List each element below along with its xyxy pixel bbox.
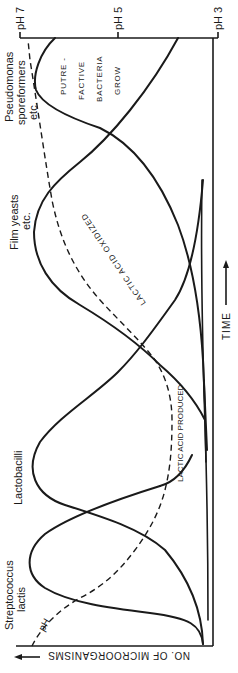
- label-time-axis: TIME: [221, 312, 232, 340]
- label-lactic-produced: LACTIC ACID PRODUCED: [176, 384, 185, 482]
- label-count-axis: NO. OF MICROORGANISMS: [48, 650, 190, 661]
- svg-text:PUTRE -: PUTRE -: [59, 57, 68, 95]
- label-ph-curve: pH: [36, 616, 52, 633]
- label-lactic-oxidized: LACTIC ACID OXIDIZED: [79, 211, 148, 307]
- label-putrefactive: PUTRE - FACTIVE BACTERIA GROW: [59, 56, 122, 102]
- svg-text:Pseudomonas: Pseudomonas: [3, 51, 15, 122]
- svg-text:Film yeasts: Film yeasts: [8, 194, 20, 250]
- label-streptococcus: Streptococcus lactis: [3, 560, 27, 630]
- svg-text:BACTERIA: BACTERIA: [95, 56, 104, 102]
- label-lactobacilli: Lactobacilli: [12, 451, 24, 505]
- svg-text:lactis: lactis: [15, 586, 27, 612]
- svg-text:Streptococcus: Streptococcus: [3, 560, 15, 630]
- label-film-yeasts: Film yeasts etc.: [8, 194, 32, 250]
- label-pseudomonas: Pseudomonas sporeformers etc.: [3, 51, 39, 125]
- time-arrow-icon: [223, 260, 229, 268]
- label-ph7: pH 7: [14, 7, 26, 30]
- label-ph3: pH 3: [212, 7, 224, 30]
- svg-text:FACTIVE: FACTIVE: [77, 61, 86, 100]
- svg-text:sporeformers: sporeformers: [15, 60, 27, 125]
- count-arrow-icon: [14, 654, 22, 660]
- svg-text:GROW: GROW: [113, 66, 122, 95]
- succession-chart: Streptococcus lactis Lactobacilli Film y…: [0, 0, 238, 673]
- curve-ph: [28, 40, 172, 646]
- curve-lactic-acid-decline: [201, 180, 206, 462]
- svg-text:etc.: etc.: [27, 102, 39, 120]
- svg-text:etc.: etc.: [20, 212, 32, 230]
- label-ph5: pH 5: [112, 7, 124, 30]
